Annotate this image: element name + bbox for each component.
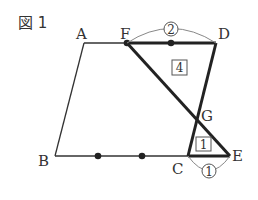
label-F: F — [120, 25, 130, 43]
label-A: A — [75, 25, 87, 43]
area-large: 4 — [176, 61, 184, 75]
trisection-dot-2 — [139, 153, 146, 160]
area-small: 1 — [200, 138, 208, 152]
midpoint-dot-FD — [168, 40, 175, 47]
figure-title: 図 1 — [18, 14, 47, 32]
label-C: C — [172, 160, 183, 178]
label-G: G — [201, 107, 213, 125]
trisection-dot-1 — [95, 153, 102, 160]
segment-AB — [55, 43, 84, 156]
label-E: E — [232, 147, 243, 165]
geometry-figure: 図 1 2 1 4 1 A F D B C E G — [0, 0, 258, 200]
label-D: D — [218, 25, 230, 43]
label-B: B — [38, 152, 49, 170]
ratio-top: 2 — [167, 23, 175, 37]
ratio-bottom: 1 — [205, 165, 213, 179]
